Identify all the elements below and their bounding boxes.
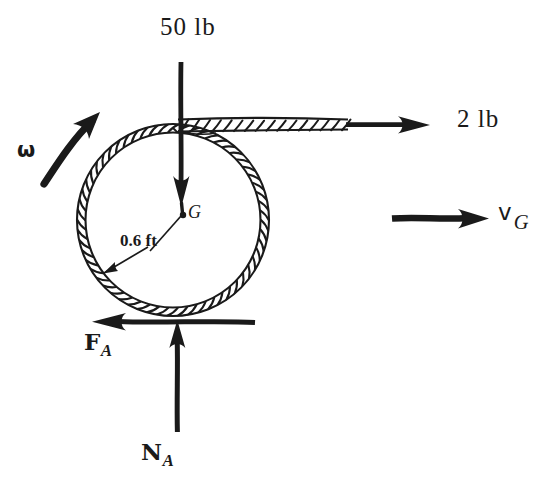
cord-rope — [178, 118, 351, 134]
friction-subscript: A — [101, 341, 112, 360]
label-weight: 50 lb — [160, 14, 216, 39]
label-normal-force: NA — [141, 440, 173, 463]
velocity-arrow — [392, 209, 489, 229]
weight-arrow — [173, 62, 189, 214]
label-angular-velocity: ω — [17, 140, 35, 161]
normal-subscript: A — [163, 451, 174, 470]
label-friction-force: FA — [84, 330, 112, 353]
cord-force-arrow — [346, 116, 430, 133]
free-body-diagram: 50 lb 2 lb ω vG G 0.6 ft FA NA — [0, 0, 551, 490]
hoop-ring — [77, 124, 269, 316]
velocity-subscript: G — [514, 211, 529, 233]
friction-symbol: F — [84, 328, 100, 355]
label-velocity: vG — [498, 199, 526, 224]
normal-force-arrow — [169, 320, 185, 432]
diagram-canvas — [0, 0, 551, 490]
label-cord-force: 2 lb — [457, 106, 499, 131]
label-center-of-mass: G — [188, 203, 201, 221]
normal-symbol: N — [141, 438, 162, 465]
label-radius: 0.6 ft — [120, 232, 157, 249]
velocity-symbol: v — [498, 199, 512, 225]
